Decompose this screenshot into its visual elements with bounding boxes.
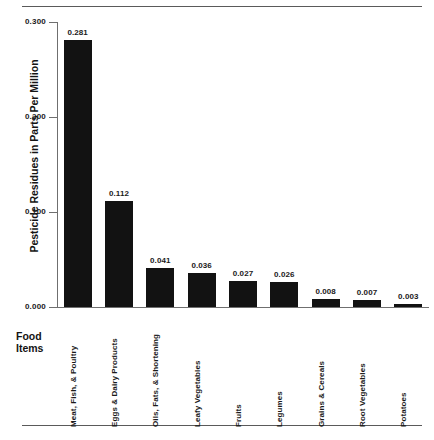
chart-page: Pesticide Residues in Parts Per Million … xyxy=(0,0,434,440)
bar xyxy=(270,282,298,307)
y-tick-label: 0.300 xyxy=(0,18,46,26)
bar-value-label: 0.008 xyxy=(305,288,346,296)
bar-slot: 0.026 xyxy=(264,22,305,307)
bar-value-label: 0.281 xyxy=(57,29,98,37)
bar-value-label: 0.027 xyxy=(222,270,263,278)
x-axis-title: Food Items xyxy=(16,331,56,354)
y-tick-label: 0.000 xyxy=(0,303,46,311)
x-axis-category-label: Potatoes xyxy=(399,392,408,427)
bar-slot: 0.112 xyxy=(98,22,139,307)
y-axis-title: Pesticide Residues in Parts Per Million xyxy=(28,26,40,286)
x-axis-line xyxy=(57,307,429,308)
x-label-slot: Fruits xyxy=(222,311,263,429)
x-axis-category-label: Meat, Fish, & Poultry xyxy=(69,346,78,427)
x-label-slot: Leafy Vegetables xyxy=(181,311,222,429)
bar-slot: 0.041 xyxy=(140,22,181,307)
x-label-slot: Oils, Fats, & Shortening xyxy=(140,311,181,429)
x-label-slot: Grains & Cereals xyxy=(305,311,346,429)
x-label-slot: Eggs & Dairy Products xyxy=(98,311,139,429)
x-axis-category-label: Oils, Fats, & Shortening xyxy=(151,334,160,427)
bar xyxy=(394,304,422,307)
y-tick-mark xyxy=(49,307,57,308)
bar-slot: 0.036 xyxy=(181,22,222,307)
y-tick-label: 0.200 xyxy=(0,113,46,121)
y-tick-mark xyxy=(49,22,57,23)
bar xyxy=(229,281,257,307)
bar xyxy=(105,201,133,307)
bar-slot: 0.027 xyxy=(222,22,263,307)
bar xyxy=(188,273,216,307)
x-label-slot: Meat, Fish, & Poultry xyxy=(57,311,98,429)
y-tick-label: 0.100 xyxy=(0,208,46,216)
x-label-slot: Potatoes xyxy=(388,311,429,429)
x-axis-category-label: Grains & Cereals xyxy=(317,361,326,427)
bar-slot: 0.008 xyxy=(305,22,346,307)
bar-series: 0.2810.1120.0410.0360.0270.0260.0080.007… xyxy=(57,22,429,307)
bar xyxy=(312,299,340,307)
x-axis-category-label: Fruits xyxy=(234,404,243,427)
x-label-slot: Legumes xyxy=(264,311,305,429)
bar-value-label: 0.041 xyxy=(140,257,181,265)
x-axis-category-labels: Meat, Fish, & PoultryEggs & Dairy Produc… xyxy=(57,311,429,429)
top-divider-rule xyxy=(22,6,422,7)
bar xyxy=(64,40,92,307)
x-axis-category-label: Root Vegetables xyxy=(358,363,367,427)
x-axis-category-label: Eggs & Dairy Products xyxy=(110,338,119,427)
bar-value-label: 0.003 xyxy=(388,293,429,301)
bar-value-label: 0.026 xyxy=(264,271,305,279)
bar xyxy=(353,300,381,307)
y-tick-mark xyxy=(49,117,57,118)
y-tick-mark xyxy=(49,212,57,213)
bar-slot: 0.003 xyxy=(388,22,429,307)
bar-value-label: 0.036 xyxy=(181,262,222,270)
bar-value-label: 0.112 xyxy=(98,190,139,198)
bar-slot: 0.007 xyxy=(346,22,387,307)
x-label-slot: Root Vegetables xyxy=(346,311,387,429)
x-axis-category-label: Leafy Vegetables xyxy=(193,360,202,427)
bar-slot: 0.281 xyxy=(57,22,98,307)
x-axis-category-label: Legumes xyxy=(275,391,284,427)
bar-value-label: 0.007 xyxy=(346,289,387,297)
bar xyxy=(146,268,174,307)
